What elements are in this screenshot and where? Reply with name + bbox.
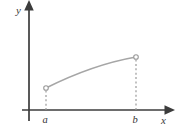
y-axis-label: y: [15, 4, 21, 16]
x-axis-label: x: [160, 114, 166, 126]
math-figure: y x a b: [0, 0, 177, 132]
tick-label-b: b: [133, 114, 138, 125]
endpoint-marker-b: [134, 55, 139, 60]
figure-canvas: y x a b: [0, 0, 177, 132]
endpoint-marker-a: [44, 86, 49, 91]
tick-label-a: a: [43, 114, 48, 125]
function-curve: [46, 57, 136, 88]
